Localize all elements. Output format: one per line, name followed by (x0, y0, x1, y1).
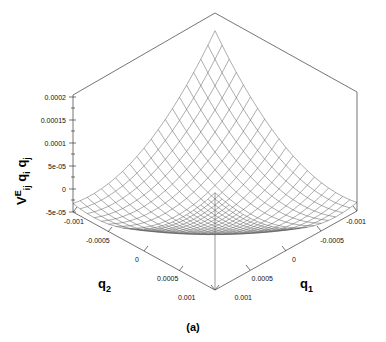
q2-axis-title-sub: 2 (106, 284, 111, 294)
mesh-line (187, 85, 329, 220)
mesh-line (180, 183, 322, 235)
q2-tick-label: -0.0005 (86, 237, 110, 244)
q1-axis-title-main: q (300, 276, 308, 291)
q2-tick-label: 0.001 (178, 294, 196, 301)
q2-tick-label: -0.001 (64, 218, 84, 225)
mesh-line (151, 139, 293, 231)
q1-tick-label: 0.0005 (252, 275, 274, 282)
svg-text:q1: q1 (300, 276, 313, 294)
z-axis-title: VEij qi qj (13, 157, 32, 205)
z-tick-label: 5e-05 (48, 163, 66, 170)
mesh-line (101, 189, 243, 234)
z-tick-label: 0 (62, 186, 66, 193)
mesh-line (172, 177, 314, 235)
q1-tick-label: 0.001 (234, 294, 252, 301)
mesh-line (165, 119, 307, 227)
q1-tick-label: -0.001 (346, 218, 366, 225)
q1-axis-ticks (211, 206, 357, 290)
z-tick-label: 0.00015 (41, 117, 66, 124)
surface-plot-svg: 0.0002 0.00015 0.0001 5e-05 0 -5e-05 VEi… (0, 0, 386, 342)
mesh-line (187, 188, 329, 234)
mesh-line (123, 171, 265, 234)
q2-tick-label: 0 (135, 256, 139, 263)
mesh-line (109, 184, 251, 235)
mesh-line (165, 171, 307, 235)
q1-tick-label: -0.0005 (320, 237, 344, 244)
q2-axis-title: q2 (98, 276, 111, 294)
z-axis-title-main: V (14, 196, 29, 205)
z-tick-label: 0.0002 (45, 94, 67, 101)
mesh-line (80, 45, 222, 209)
mesh-line (208, 45, 350, 208)
q2-axis-tick-labels: -0.001 -0.0005 0 0.0005 0.001 (64, 218, 196, 301)
z-axis-title-qj: q (14, 160, 29, 168)
mesh-line (101, 85, 243, 221)
mesh-line (87, 59, 229, 214)
figure-panel: 0.0002 0.00015 0.0001 5e-05 0 -5e-05 VEi… (0, 0, 386, 342)
z-axis-tick-labels: 0.0002 0.00015 0.0001 5e-05 0 -5e-05 (41, 94, 66, 216)
mesh-line (158, 130, 300, 230)
q2-axis-ticks (73, 207, 219, 290)
figure-caption: (a) (186, 321, 200, 333)
z-axis-title-qj-sub: j (22, 157, 32, 161)
z-axis-title-qi: q (14, 174, 29, 182)
mesh-line (116, 108, 258, 226)
svg-text:VEij qi qj: VEij qi qj (13, 157, 32, 205)
svg-text:q2: q2 (98, 276, 111, 294)
q1-tick-label: 0 (292, 256, 296, 263)
q2-tick-label: 0.0005 (157, 275, 179, 282)
q2-axis-title-main: q (98, 276, 106, 291)
mesh-line (215, 31, 357, 203)
mesh-line (123, 119, 265, 228)
z-tick-label: -5e-05 (46, 209, 66, 216)
q1-axis-title-sub: 1 (308, 284, 313, 294)
mesh-line (201, 59, 343, 213)
z-axis-ticks (69, 97, 76, 212)
q1-axis-title: q1 (300, 276, 313, 294)
mesh-line (172, 109, 314, 226)
z-tick-label: 0.0001 (45, 140, 67, 147)
